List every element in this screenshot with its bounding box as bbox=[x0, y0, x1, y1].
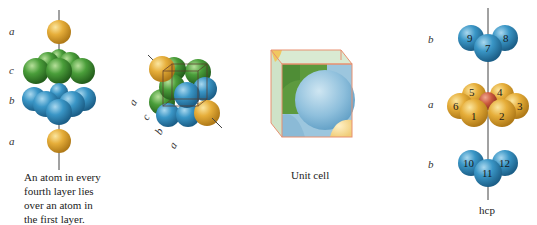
svg-text:12: 12 bbox=[499, 157, 510, 169]
unit-cell-caption: Unit cell bbox=[291, 168, 329, 182]
svg-text:5: 5 bbox=[469, 86, 475, 98]
svg-text:10: 10 bbox=[463, 157, 475, 169]
svg-text:7: 7 bbox=[485, 42, 491, 54]
ccp-stack-caption: An atom in every fourth layer lies over … bbox=[24, 170, 134, 225]
caption-line: An atom in every bbox=[24, 170, 134, 184]
ccp-cube-figure bbox=[148, 55, 222, 128]
hcp-caption: hcp bbox=[479, 203, 495, 217]
svg-text:4: 4 bbox=[497, 86, 503, 98]
ccp-layer-stack bbox=[22, 10, 96, 170]
svg-text:8: 8 bbox=[503, 32, 509, 44]
hcp-layer-label-b-top: b bbox=[428, 33, 434, 45]
svg-text:9: 9 bbox=[467, 32, 473, 44]
svg-text:2: 2 bbox=[499, 110, 505, 122]
caption-line: the first layer. bbox=[24, 212, 134, 225]
unit-cell-figure bbox=[271, 50, 355, 137]
layer-label-b: b bbox=[9, 94, 15, 106]
layer-label-a-bottom: a bbox=[9, 135, 15, 147]
atom-layer-a-bottom bbox=[47, 129, 71, 153]
svg-text:11: 11 bbox=[482, 167, 493, 179]
svg-text:1: 1 bbox=[471, 110, 477, 122]
svg-text:3: 3 bbox=[517, 100, 523, 112]
caption-line: over an atom in bbox=[24, 198, 134, 212]
caption-line: fourth layer lies bbox=[24, 184, 134, 198]
hcp-layer-label-b-bottom: b bbox=[428, 158, 434, 170]
atom-layer-a-top bbox=[47, 20, 71, 44]
svg-text:6: 6 bbox=[453, 100, 459, 112]
hcp-figure: 9 8 7 5 4 6 3 1 2 10 12 11 bbox=[447, 8, 529, 200]
hcp-layer-label-a: a bbox=[428, 98, 434, 110]
layer-label-c: c bbox=[9, 64, 14, 76]
layer-label-a-top: a bbox=[9, 25, 15, 37]
